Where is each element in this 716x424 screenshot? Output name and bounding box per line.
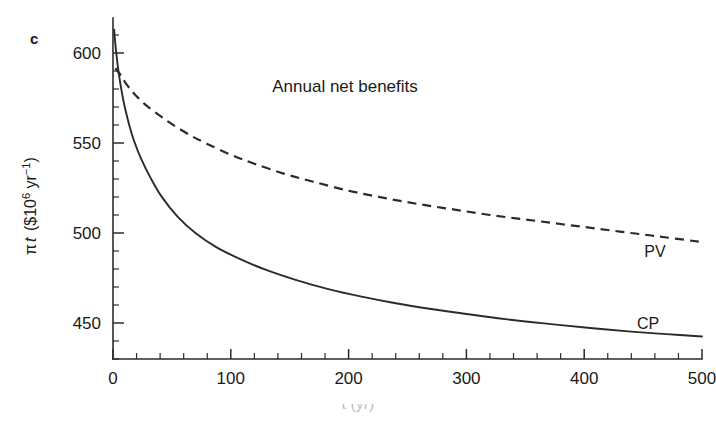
series-label-cp: CP [637,315,659,332]
y-tick-label: 450 [73,314,101,333]
y-axis-title-units-exp2: −1 [20,163,32,176]
y-tick-label: 550 [73,134,101,153]
y-axis-title-units-close: ) [22,157,39,162]
x-axis-major-ticks [113,349,702,359]
x-tick-label: 100 [217,369,245,388]
y-tick-label: 500 [73,224,101,243]
x-axis-minor-ticks [137,353,679,359]
y-axis-title-symbol: π [22,244,39,255]
chart-annotation: Annual net benefits [272,77,418,96]
y-axis-title-units-open: ($10 [22,199,39,236]
x-tick-label: 0 [108,369,117,388]
y-axis-title: πt ($106 yr−1) [20,157,39,255]
y-axis-tick-labels: 450500550600 [73,44,101,333]
x-tick-label: 500 [688,369,716,388]
panel-letter: c [30,30,38,47]
chart-canvas: c πt ($106 yr−1) 450500550600 0100200300… [0,0,716,424]
series-label-pv: PV [644,243,666,260]
y-axis-title-units-mid: yr [22,174,39,192]
x-axis-tick-labels: 0100200300400500 [108,369,716,388]
svg-text:πt ($106 yr−1): πt ($106 yr−1) [20,157,39,255]
y-axis-minor-ticks [113,35,119,359]
x-tick-label: 400 [570,369,598,388]
x-tick-label: 200 [334,369,362,388]
y-axis-title-variable: t [22,237,39,242]
y-tick-label: 600 [73,44,101,63]
figure-panel-c: c πt ($106 yr−1) 450500550600 0100200300… [0,0,716,424]
series-line-cp [114,30,702,337]
x-tick-label: 300 [452,369,480,388]
